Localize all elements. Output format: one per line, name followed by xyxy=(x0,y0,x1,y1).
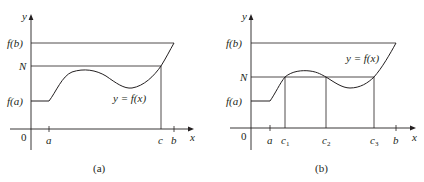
c3-label: c3 xyxy=(370,134,379,148)
c-label: c xyxy=(158,134,163,146)
N-label: N xyxy=(239,71,248,83)
function-curve xyxy=(31,43,174,101)
y-label: y xyxy=(241,10,247,22)
caption-b: (b) xyxy=(315,162,328,175)
x-label: x xyxy=(411,131,417,143)
y-axis-arrow-icon xyxy=(249,14,254,20)
fb-label: f(b) xyxy=(226,37,242,50)
x-axis-arrow-icon xyxy=(410,126,416,131)
b-label: b xyxy=(171,134,177,146)
c1-label: c1 xyxy=(281,134,290,148)
N-label: N xyxy=(18,60,27,72)
a-label: a xyxy=(267,134,273,146)
a-label: a xyxy=(46,134,52,146)
panel-a: y f(b) N f(a) 0 a c b x y = f(x) (a) xyxy=(7,10,195,175)
caption-a: (a) xyxy=(93,162,106,175)
ivt-diagram: y f(b) N f(a) 0 a c b x y = f(x) (a) y f… xyxy=(0,0,424,182)
curve-label: y = f(x) xyxy=(112,92,146,105)
c2-label: c2 xyxy=(322,134,331,148)
curve-label: y = f(x) xyxy=(345,52,379,65)
origin-label: 0 xyxy=(241,130,247,142)
y-axis-arrow-icon xyxy=(29,14,34,20)
panel-b: y f(b) N f(a) 0 a c1 c2 c3 b x y = f(x) … xyxy=(226,10,417,175)
y-label: y xyxy=(21,10,27,22)
x-label: x xyxy=(189,131,195,143)
origin-label: 0 xyxy=(21,131,27,143)
fa-label: f(a) xyxy=(7,95,23,108)
b-label: b xyxy=(393,134,399,146)
fa-label: f(a) xyxy=(226,95,242,108)
fb-label: f(b) xyxy=(7,37,23,50)
